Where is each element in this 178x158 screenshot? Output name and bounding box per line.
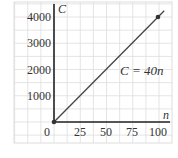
svg-text:3000: 3000 [27,36,51,50]
svg-text:C: C [58,2,67,16]
svg-text:50: 50 [100,125,112,139]
svg-text:4000: 4000 [27,10,51,24]
svg-text:1000: 1000 [27,89,51,103]
svg-text:0: 0 [44,125,50,139]
svg-text:25: 25 [74,125,86,139]
svg-text:75: 75 [126,125,138,139]
svg-text:n: n [163,108,169,122]
svg-text:100: 100 [149,125,167,139]
svg-text:2000: 2000 [27,63,51,77]
chart: 02550751001000200030004000 CnC = 40n [0,0,178,158]
svg-text:C = 40n: C = 40n [120,63,163,78]
